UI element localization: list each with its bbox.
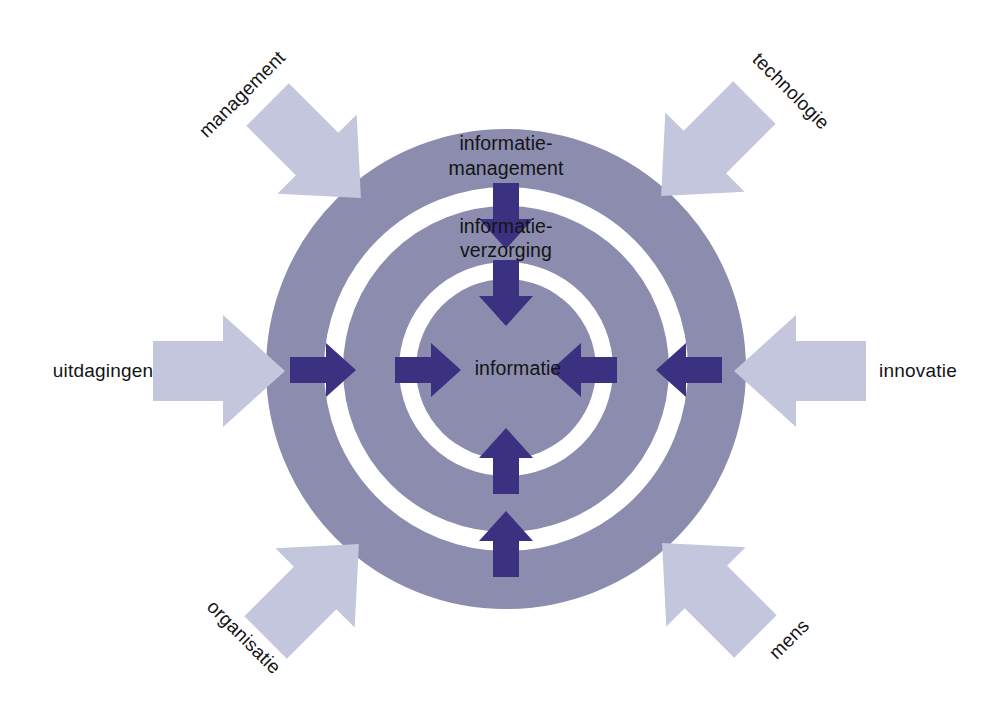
ring-label-informatieverzorging-line2: verzorging xyxy=(460,239,552,261)
ring-label-informatiemanagement-line1: informatie- xyxy=(459,132,552,154)
driver-arrow-uitdagingen xyxy=(153,315,285,427)
driver-arrow-innovatie xyxy=(734,315,866,427)
driver-label-innovatie: innovatie xyxy=(879,360,957,381)
ring-label-informatiemanagement-line2: management xyxy=(449,157,564,179)
driver-label-uitdagingen: uitdagingen xyxy=(53,360,153,381)
driver-label-mens: mens xyxy=(765,615,813,663)
ring-label-informatieverzorging-line1: informatie- xyxy=(459,215,552,237)
ring-label-informatie: informatie xyxy=(475,357,562,379)
informatiemanagement-diagram: informatie- management informatie- verzo… xyxy=(0,0,996,715)
diagram-root: informatie- management informatie- verzo… xyxy=(0,0,996,715)
